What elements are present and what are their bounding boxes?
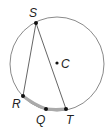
circle-diagram: S C R Q T [0,0,110,128]
arc-qt [46,109,66,110]
point-t [64,107,68,111]
point-c [55,61,58,64]
point-s [34,21,38,25]
label-s: S [29,6,37,20]
label-t: T [66,113,75,127]
point-r [21,94,25,98]
label-q: Q [36,113,45,127]
label-c: C [61,57,70,71]
chord-sr [23,23,36,96]
point-q [44,107,48,111]
arc-rq [23,96,46,109]
label-r: R [12,97,21,111]
